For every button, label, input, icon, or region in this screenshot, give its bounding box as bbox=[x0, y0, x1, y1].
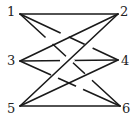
node-label-4: 4 bbox=[121, 53, 129, 68]
node-label-1: 1 bbox=[7, 4, 15, 19]
knot-diagram: 1 2 3 4 5 6 bbox=[0, 0, 134, 118]
node-label-5: 5 bbox=[7, 101, 15, 116]
node-label-6: 6 bbox=[122, 101, 130, 116]
node-label-2: 2 bbox=[120, 4, 128, 19]
node-label-3: 3 bbox=[7, 53, 15, 68]
